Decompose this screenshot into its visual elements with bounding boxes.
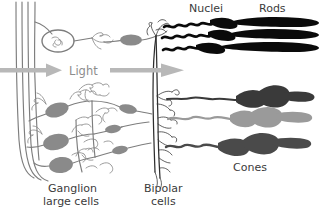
label-rods: Rods	[259, 2, 286, 15]
label-ganglion-line1: Ganglion	[48, 182, 97, 195]
diagram-canvas: Nuclei Rods Light Cones Ganglion large c…	[0, 0, 321, 214]
label-light: Light	[69, 64, 98, 78]
retina-diagram: Nuclei Rods Light Cones Ganglion large c…	[0, 0, 321, 214]
label-ganglion-line2: large cells	[43, 195, 99, 208]
label-cones: Cones	[233, 161, 267, 174]
label-nuclei: Nuclei	[189, 2, 223, 15]
label-bipolar-line2: cells	[151, 195, 176, 208]
label-bipolar-line1: Bipolar	[144, 182, 183, 195]
